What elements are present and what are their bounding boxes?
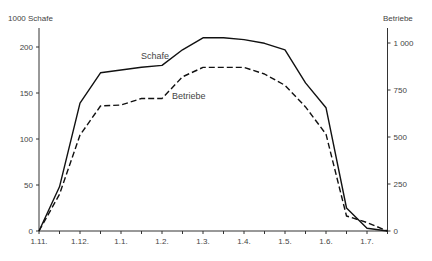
left-tick-label: 0: [29, 227, 34, 236]
x-tick-label: 1.4.: [237, 237, 250, 246]
left-axis-title: 1000 Schafe: [8, 14, 53, 23]
axis-labels: 1000 Schafe Betriebe Schafe Betriebe: [8, 14, 413, 101]
right-axis-title: Betriebe: [383, 14, 413, 23]
x-tick-label: 1.3.: [196, 237, 209, 246]
left-tick-label: 150: [20, 89, 34, 98]
right-tick-label: 750: [394, 86, 408, 95]
series-label-betriebe: Betriebe: [172, 91, 206, 101]
right-tick-label: 250: [394, 180, 408, 189]
right-tick-label: 1 000: [394, 39, 415, 48]
x-tick-label: 1.12.: [71, 237, 89, 246]
series-lines: [39, 38, 388, 231]
x-tick-label: 1.5.: [278, 237, 291, 246]
right-tick-label: 0: [394, 227, 399, 236]
series-line-betriebe: [39, 67, 388, 231]
x-tick-label: 1.6.: [319, 237, 332, 246]
left-tick-label: 50: [24, 181, 33, 190]
right-tick-label: 500: [394, 133, 408, 142]
x-tick-label: 1.11.: [30, 237, 47, 246]
left-tick-label: 200: [20, 43, 34, 52]
x-tick-label: 1.2.: [155, 237, 168, 246]
left-tick-label: 100: [20, 135, 34, 144]
sheep-farms-chart: 05010015020002505007501 0001.11.1.12.1.1…: [0, 0, 432, 261]
x-tick-label: 1.1.: [114, 237, 127, 246]
series-label-schafe: Schafe: [141, 51, 169, 61]
x-tick-label: 1.7.: [360, 237, 373, 246]
